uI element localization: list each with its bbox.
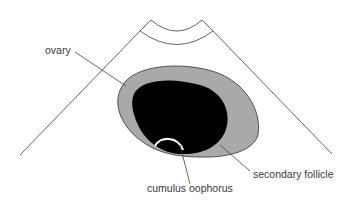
probe-left-edge: [140, 20, 151, 31]
ovary-leader-line: [75, 52, 126, 86]
ultrasound-diagram: ovary secondary follicle cumulus oophoru…: [0, 0, 356, 210]
cumulus-oophorus-label: cumulus oophorus: [147, 182, 233, 194]
ovary-label: ovary: [45, 44, 71, 56]
probe-inner-arc: [151, 20, 202, 31]
probe-right-edge: [202, 20, 213, 31]
secondary-follicle-label: secondary follicle: [253, 168, 334, 180]
transducer-probe: [140, 20, 213, 45]
probe-outer-arc: [140, 31, 213, 45]
